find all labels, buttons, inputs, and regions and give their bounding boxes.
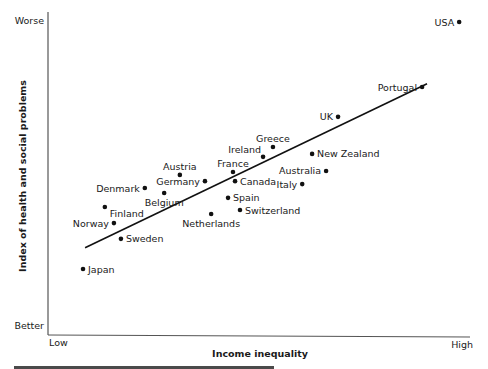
- y-axis-title: Index of health and social problems: [17, 80, 28, 272]
- data-point: Belgium: [145, 191, 184, 208]
- point-label: Germany: [156, 176, 200, 187]
- data-point: Denmark: [96, 183, 147, 194]
- figure-caption-cutoff: [14, 361, 274, 369]
- point-marker: [226, 196, 231, 201]
- y-tick-max: Worse: [15, 15, 45, 26]
- data-point: Norway: [73, 218, 116, 229]
- data-point: Portugal: [378, 82, 425, 93]
- data-point: Switzerland: [238, 205, 301, 216]
- data-point: UK: [320, 111, 340, 122]
- point-label: Austria: [163, 161, 197, 172]
- point-marker: [103, 205, 108, 210]
- point-label: Italy: [277, 179, 298, 190]
- data-point: USA: [435, 17, 462, 28]
- data-point: Germany: [156, 176, 207, 187]
- data-points: USAPortugalUKGreeceIrelandNew ZealandAus…: [73, 17, 462, 275]
- data-point: Australia: [279, 165, 328, 176]
- data-point: Sweden: [119, 233, 164, 244]
- point-marker: [261, 155, 266, 160]
- point-marker: [233, 179, 238, 184]
- point-label: UK: [320, 111, 334, 122]
- point-label: Switzerland: [245, 205, 300, 216]
- point-marker: [81, 267, 86, 272]
- trend-line: [85, 84, 427, 248]
- point-label: Spain: [233, 192, 260, 203]
- point-label: Netherlands: [182, 218, 240, 229]
- point-label: Sweden: [126, 233, 164, 244]
- point-marker: [300, 182, 305, 187]
- point-label: Belgium: [145, 197, 184, 208]
- data-point: Spain: [226, 192, 260, 203]
- data-point: Japan: [81, 264, 115, 275]
- point-label: Australia: [279, 165, 321, 176]
- data-point: Ireland: [228, 144, 265, 159]
- point-marker: [231, 170, 236, 175]
- point-marker: [162, 191, 167, 196]
- point-label: Finland: [110, 208, 144, 219]
- point-marker: [203, 179, 208, 184]
- point-marker: [271, 145, 276, 150]
- point-marker: [143, 186, 148, 191]
- data-point: New Zealand: [310, 148, 380, 159]
- x-tick-min: Low: [49, 337, 68, 348]
- y-tick-min: Better: [14, 320, 44, 331]
- data-point: Canada: [233, 176, 276, 187]
- point-marker: [324, 169, 329, 174]
- point-marker: [119, 237, 124, 242]
- point-label: Ireland: [228, 144, 261, 155]
- point-label: Greece: [256, 133, 290, 144]
- point-label: Portugal: [378, 82, 417, 93]
- data-point: Netherlands: [182, 212, 240, 229]
- point-marker: [457, 20, 462, 25]
- x-axis-line: [48, 335, 470, 337]
- x-axis-title: Income inequality: [212, 348, 309, 359]
- scatter-chart: Worse Better Low High Income inequality …: [0, 0, 488, 369]
- point-marker: [238, 208, 243, 213]
- point-label: Denmark: [96, 183, 140, 194]
- point-label: Canada: [240, 176, 276, 187]
- point-label: USA: [435, 17, 455, 28]
- point-marker: [209, 212, 214, 217]
- data-point: Greece: [256, 133, 290, 149]
- point-marker: [310, 152, 315, 157]
- x-tick-max: High: [451, 339, 473, 350]
- point-marker: [112, 221, 117, 226]
- point-marker: [420, 85, 425, 90]
- point-label: Japan: [87, 264, 115, 275]
- data-point: Italy: [277, 179, 305, 190]
- point-label: New Zealand: [317, 148, 379, 159]
- point-marker: [336, 115, 341, 120]
- point-label: France: [217, 158, 249, 169]
- point-label: Norway: [73, 218, 109, 229]
